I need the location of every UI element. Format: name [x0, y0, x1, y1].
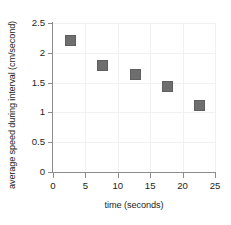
- x-axis-tick: [85, 173, 86, 178]
- x-axis-tick-label: 0: [38, 180, 68, 192]
- x-axis-tick-label: 25: [200, 180, 230, 192]
- x-axis-tick-label: 15: [135, 180, 165, 192]
- y-axis-tick: [48, 53, 53, 54]
- y-axis-tick-label-text: 2: [0, 47, 45, 58]
- x-axis-tick-label: 10: [103, 180, 133, 192]
- x-axis-line: [52, 172, 216, 173]
- gridline-vertical: [150, 23, 151, 172]
- y-axis-tick: [48, 83, 53, 84]
- y-axis-tick-label-text: 1: [0, 106, 45, 117]
- x-axis-tick-label-text: 25: [200, 180, 230, 191]
- gridline-vertical: [85, 23, 86, 172]
- y-axis-tick-label-text: 0.5: [0, 136, 45, 147]
- data-point: [97, 60, 108, 71]
- y-axis-tick-label: 0.5: [0, 136, 45, 148]
- scatter-chart: average speed during interval (cm/second…: [0, 0, 231, 225]
- x-axis-tick-label-text: 15: [135, 180, 165, 191]
- y-axis-line: [52, 22, 53, 173]
- x-axis-tick-label: 20: [168, 180, 198, 192]
- gridline-horizontal: [53, 53, 215, 54]
- y-axis-tick-label: 1.5: [0, 77, 45, 89]
- gridline-horizontal: [53, 23, 215, 24]
- x-axis-tick: [150, 173, 151, 178]
- x-axis-tick: [215, 173, 216, 178]
- x-axis-tick-label-text: 20: [168, 180, 198, 191]
- data-point: [162, 81, 173, 92]
- x-axis-tick-label-text: 0: [38, 180, 68, 191]
- y-axis-tick: [48, 23, 53, 24]
- plot-area: [53, 23, 215, 172]
- gridline-horizontal: [53, 142, 215, 143]
- gridline-vertical: [215, 23, 216, 172]
- y-axis-tick-label: 0: [0, 166, 45, 178]
- y-axis-tick: [48, 142, 53, 143]
- y-axis-tick: [48, 112, 53, 113]
- data-point: [194, 100, 205, 111]
- gridline-horizontal: [53, 112, 215, 113]
- data-point: [65, 35, 76, 46]
- x-axis-tick: [118, 173, 119, 178]
- y-axis-tick-label-text: 0: [0, 166, 45, 177]
- y-axis-tick-label: 2: [0, 47, 45, 59]
- y-axis-tick-label: 1: [0, 106, 45, 118]
- x-axis-tick: [53, 173, 54, 178]
- x-axis-tick-label: 5: [70, 180, 100, 192]
- x-axis-tick-label-text: 10: [103, 180, 133, 191]
- y-axis-tick-label-text: 2.5: [0, 17, 45, 28]
- gridline-horizontal: [53, 83, 215, 84]
- gridline-vertical: [118, 23, 119, 172]
- gridline-vertical: [183, 23, 184, 172]
- y-axis-tick-label: 2.5: [0, 17, 45, 29]
- x-axis-tick-label-text: 5: [70, 180, 100, 191]
- y-axis-tick-label-text: 1.5: [0, 77, 45, 88]
- x-axis-title: time (seconds): [52, 200, 216, 210]
- data-point: [130, 69, 141, 80]
- x-axis-tick: [183, 173, 184, 178]
